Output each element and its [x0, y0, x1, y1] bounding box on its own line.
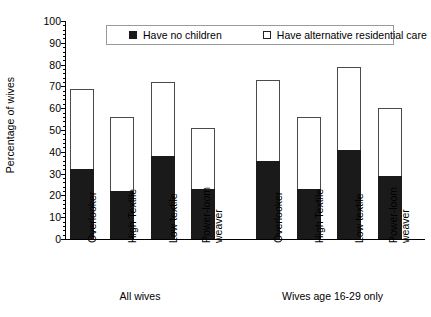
y-tick-minor — [63, 95, 65, 96]
y-tick-label-0: 0 — [23, 234, 61, 245]
y-tick-minor — [63, 78, 65, 79]
y-tick-mark-0 — [61, 239, 65, 240]
legend-swatch-hollow-icon — [263, 31, 271, 39]
y-tick-minor — [63, 156, 65, 157]
y-tick-minor — [63, 117, 65, 118]
y-tick-minor — [63, 169, 65, 170]
y-tick-minor — [63, 222, 65, 223]
y-tick-minor — [63, 82, 65, 83]
y-tick-minor — [63, 34, 65, 35]
y-tick-minor — [63, 104, 65, 105]
x-category-label-line1-6: Low textile — [353, 193, 365, 243]
y-tick-mark-90 — [61, 43, 65, 44]
y-tick-mark-10 — [61, 217, 65, 218]
x-category-label-5: High Textile — [314, 189, 326, 243]
y-tick-minor — [63, 30, 65, 31]
x-category-label-line2-7: weaver — [400, 187, 412, 243]
y-tick-mark-20 — [61, 195, 65, 196]
y-tick-minor — [63, 73, 65, 74]
y-tick-mark-80 — [61, 65, 65, 66]
y-tick-minor — [63, 147, 65, 148]
x-category-label-line1-4: Overlooker — [272, 192, 284, 243]
y-tick-minor — [63, 143, 65, 144]
y-tick-mark-30 — [61, 174, 65, 175]
y-tick-label-100: 100 — [23, 16, 61, 27]
y-tick-minor — [63, 187, 65, 188]
x-category-label-line1-2: Low textile — [167, 193, 179, 243]
y-tick-minor — [63, 25, 65, 26]
y-tick-minor — [63, 235, 65, 236]
y-tick-mark-70 — [61, 86, 65, 87]
legend-label-no-children: Have no children — [143, 29, 222, 41]
x-category-label-2: Low textile — [168, 193, 180, 243]
x-category-label-line1-7: Power-loom — [387, 187, 399, 243]
y-tick-minor — [63, 60, 65, 61]
y-tick-label-40: 40 — [23, 147, 61, 158]
y-tick-minor — [63, 178, 65, 179]
y-tick-minor — [63, 182, 65, 183]
plot-area: 0102030405060708090100 — [65, 21, 425, 239]
y-tick-label-10: 10 — [23, 212, 61, 223]
x-category-label-6: Low textile — [354, 193, 366, 243]
x-category-label-line1-5: High Textile — [313, 189, 325, 243]
y-tick-label-80: 80 — [23, 60, 61, 71]
x-category-label-3: Power-loomweaver — [201, 187, 224, 243]
x-category-label-7: Power-loomweaver — [388, 187, 411, 243]
y-tick-minor — [63, 56, 65, 57]
y-tick-minor — [63, 191, 65, 192]
y-tick-minor — [63, 99, 65, 100]
y-tick-label-60: 60 — [23, 103, 61, 114]
x-category-label-line2-3: weaver — [213, 187, 225, 243]
y-axis-title: Percentage of wives — [4, 50, 16, 200]
legend-label-residential-care: Have alternative residential care — [277, 29, 427, 41]
y-tick-minor — [63, 126, 65, 127]
y-tick-minor — [63, 52, 65, 53]
stacked-bar-chart: Percentage of wives 01020304050607080901… — [0, 0, 431, 317]
y-tick-minor — [63, 91, 65, 92]
legend-swatch-solid-icon — [129, 31, 137, 39]
y-tick-minor — [63, 134, 65, 135]
x-category-label-line1-1: High Textile — [126, 189, 138, 243]
group-label-all-wives: All wives — [60, 290, 220, 302]
y-tick-minor — [63, 208, 65, 209]
y-tick-minor — [63, 226, 65, 227]
y-tick-minor — [63, 121, 65, 122]
y-tick-minor — [63, 69, 65, 70]
x-category-label-line1-0: Overlooker — [86, 192, 98, 243]
y-tick-mark-50 — [61, 130, 65, 131]
y-tick-mark-100 — [61, 21, 65, 22]
y-tick-minor — [63, 204, 65, 205]
y-tick-minor — [63, 47, 65, 48]
y-tick-minor — [63, 165, 65, 166]
y-tick-minor — [63, 38, 65, 39]
y-tick-minor — [63, 113, 65, 114]
y-tick-label-20: 20 — [23, 190, 61, 201]
y-tick-label-70: 70 — [23, 81, 61, 92]
y-tick-minor — [63, 213, 65, 214]
x-category-label-line1-3: Power-loom — [200, 187, 212, 243]
group-label-young-wives: Wives age 16-29 only — [245, 290, 420, 302]
y-tick-minor — [63, 200, 65, 201]
y-tick-mark-40 — [61, 152, 65, 153]
x-axis-line — [65, 239, 425, 240]
y-axis-line — [65, 21, 66, 240]
y-tick-label-50: 50 — [23, 125, 61, 136]
y-tick-minor — [63, 139, 65, 140]
x-category-label-4: Overlooker — [273, 192, 285, 243]
y-tick-label-90: 90 — [23, 38, 61, 49]
y-tick-minor — [63, 161, 65, 162]
y-tick-minor — [63, 230, 65, 231]
legend-item-residential-care: Have alternative residential care — [263, 29, 427, 41]
x-category-label-0: Overlooker — [87, 192, 99, 243]
x-category-label-1: High Textile — [127, 189, 139, 243]
y-tick-label-30: 30 — [23, 169, 61, 180]
legend-item-no-children: Have no children — [129, 29, 222, 41]
chart-legend: Have no children Have alternative reside… — [106, 25, 394, 45]
y-tick-mark-60 — [61, 108, 65, 109]
